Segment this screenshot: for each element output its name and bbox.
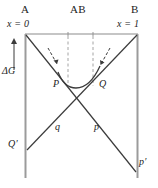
- label-vertex-a: A: [21, 4, 29, 15]
- label-vertex-b: B: [131, 4, 139, 15]
- tangent-arrowhead-right: [100, 60, 105, 65]
- line-q-prime-to-b: [27, 35, 137, 150]
- label-x-right: x = 1: [117, 19, 139, 29]
- label-branch-q: q: [55, 122, 60, 132]
- label-branch-p-prime: p′: [139, 157, 147, 167]
- tangent-arrowhead-left: [54, 60, 59, 65]
- label-x-left: x = 0: [7, 19, 29, 29]
- label-delta-g: ΔG: [2, 66, 16, 76]
- delta-g-arrowhead: [11, 38, 17, 44]
- label-branch-q-prime: Q′: [8, 139, 18, 149]
- label-point-p: P: [53, 79, 59, 89]
- label-vertex-ab: AB: [70, 4, 86, 15]
- avoided-crossing-curve: [58, 66, 100, 88]
- label-branch-p: p: [94, 122, 99, 132]
- free-energy-diagram: A AB B x = 0 x = 1 ΔG P Q q p Q′ p′: [0, 0, 158, 188]
- line-a-to-p-prime: [26, 35, 136, 172]
- label-point-q: Q: [99, 79, 106, 89]
